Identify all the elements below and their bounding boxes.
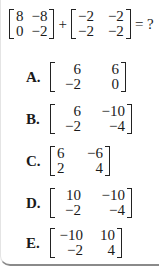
cell: 6 xyxy=(57,62,81,77)
matrix-b: −2 −2 −2 −2 xyxy=(71,9,131,39)
cell: −2 xyxy=(57,77,81,92)
matrix-a-cell: −8 xyxy=(32,9,48,24)
matrix-a-cell: 0 xyxy=(16,24,24,39)
right-bracket xyxy=(126,9,131,39)
option-d[interactable]: D. 10 −10 −2 −4 xyxy=(26,188,132,218)
cell: −10 xyxy=(95,188,125,203)
cell: −2 xyxy=(57,119,81,134)
right-bracket xyxy=(127,188,132,218)
matrix-a: 8 −8 0 −2 xyxy=(9,9,54,39)
matrix-a-cell: −2 xyxy=(32,24,48,39)
cell: 4 xyxy=(97,243,115,258)
option-b[interactable]: B. 6 −10 −2 −4 xyxy=(26,104,132,134)
matrix-b-cell: −2 xyxy=(78,24,94,39)
option-matrix: 6 6 −2 0 xyxy=(50,62,126,92)
cell: 4 xyxy=(81,161,103,176)
matrix-b-cell: −2 xyxy=(108,9,124,24)
right-bracket xyxy=(105,146,110,176)
option-c[interactable]: C. 6 −6 2 4 xyxy=(26,146,110,176)
matrix-a-cell: 8 xyxy=(16,9,24,24)
matrix-b-cell: −2 xyxy=(108,24,124,39)
option-letter: E. xyxy=(26,235,50,252)
cell: −2 xyxy=(57,243,83,258)
option-a[interactable]: A. 6 6 −2 0 xyxy=(26,62,126,92)
right-bracket xyxy=(49,9,54,39)
option-matrix: 6 −6 2 4 xyxy=(50,146,110,176)
option-matrix: −10 10 −2 4 xyxy=(50,228,122,258)
option-matrix: 6 −10 −2 −4 xyxy=(50,104,132,134)
cell: 6 xyxy=(57,146,67,161)
option-matrix: 10 −10 −2 −4 xyxy=(50,188,132,218)
cell: 10 xyxy=(97,228,115,243)
cell: 0 xyxy=(95,77,119,92)
equals-question: = ? xyxy=(135,16,154,33)
cell: 6 xyxy=(95,62,119,77)
option-letter: A. xyxy=(26,69,50,86)
matrix-b-cell: −2 xyxy=(78,9,94,24)
cell: −6 xyxy=(81,146,103,161)
right-bracket xyxy=(117,228,122,258)
cell: −10 xyxy=(57,228,83,243)
plus-operator: + xyxy=(58,16,66,33)
option-letter: C. xyxy=(26,153,50,170)
right-bracket xyxy=(121,62,126,92)
cell: −4 xyxy=(95,203,125,218)
cell: 2 xyxy=(57,161,67,176)
cell: −2 xyxy=(57,203,81,218)
cell: 10 xyxy=(57,188,81,203)
cell: −10 xyxy=(95,104,125,119)
option-letter: B. xyxy=(26,111,50,128)
question-expression: 8 −8 0 −2 + −2 −2 −2 −2 = ? xyxy=(9,9,158,39)
right-bracket xyxy=(127,104,132,134)
cell: 6 xyxy=(57,104,81,119)
option-e[interactable]: E. −10 10 −2 4 xyxy=(26,228,122,258)
option-letter: D. xyxy=(26,195,50,212)
cell: −4 xyxy=(95,119,125,134)
